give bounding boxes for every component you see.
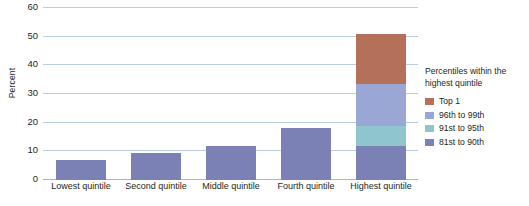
legend-swatch	[425, 98, 434, 105]
y-axis-tick-label: 20	[27, 117, 38, 127]
legend-swatch	[425, 139, 434, 146]
legend-label: 96th to 99th	[439, 111, 484, 120]
legend-label: 81st to 90th	[439, 138, 484, 147]
y-axis-tick-label: 30	[27, 88, 38, 98]
bar[interactable]	[131, 153, 181, 180]
quintile-percent-column-chart: Percent 0102030405060 Lowest quintileSec…	[0, 0, 529, 206]
bar-segment[interactable]	[281, 128, 331, 180]
bar[interactable]	[281, 128, 331, 180]
bar-segment[interactable]	[131, 153, 181, 180]
legend-swatch	[425, 112, 434, 119]
bar-segment[interactable]	[56, 160, 106, 180]
bar-segment[interactable]	[356, 126, 406, 146]
legend-item[interactable]: 91st to 95th	[425, 124, 529, 133]
legend-item[interactable]: 96th to 99th	[425, 111, 529, 120]
legend-item[interactable]: Top 1	[425, 97, 529, 106]
y-axis-tick-label: 50	[27, 31, 38, 41]
bar[interactable]	[56, 160, 106, 180]
bar-segment[interactable]	[356, 34, 406, 84]
legend-label: 91st to 95th	[439, 124, 484, 133]
bar-group	[43, 8, 418, 180]
y-axis-title: Percent	[7, 53, 17, 113]
x-axis-label: Highest quintile	[336, 181, 426, 191]
legend-title: Percentiles within the highest quintile	[425, 66, 529, 89]
y-axis-tick-label: 40	[27, 59, 38, 69]
legend-items: Top 196th to 99th91st to 95th81st to 90t…	[425, 97, 529, 147]
legend-label: Top 1	[439, 97, 460, 106]
bar[interactable]	[356, 34, 406, 180]
y-axis-tick-label: 60	[27, 2, 38, 12]
legend: Percentiles within the highest quintile …	[425, 66, 529, 151]
bar-segment[interactable]	[356, 146, 406, 180]
bar-segment[interactable]	[206, 146, 256, 180]
legend-swatch	[425, 125, 434, 132]
plot-area: 0102030405060	[43, 8, 418, 180]
y-axis-tick-label: 10	[27, 145, 38, 155]
bar-segment[interactable]	[356, 84, 406, 126]
bar[interactable]	[206, 146, 256, 180]
legend-item[interactable]: 81st to 90th	[425, 138, 529, 147]
